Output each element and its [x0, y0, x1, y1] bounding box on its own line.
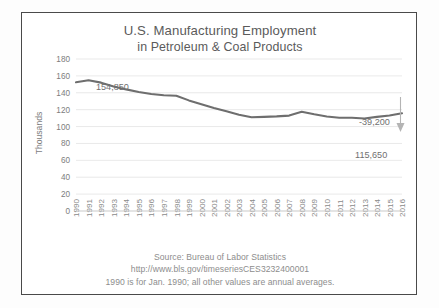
- x-tick-2002: 2002: [223, 198, 232, 217]
- x-tick-2005: 2005: [260, 198, 269, 217]
- x-tick-2011: 2011: [336, 199, 345, 217]
- x-tick-2006: 2006: [273, 198, 282, 217]
- x-tick-2013: 2013: [361, 198, 370, 217]
- x-tick-1998: 1998: [173, 198, 182, 217]
- y-tick-20: 20: [61, 190, 71, 199]
- x-tick-2001: 2001: [210, 198, 219, 217]
- x-tick-2016: 2016: [398, 198, 407, 217]
- x-tick-2004: 2004: [248, 198, 257, 217]
- x-tick-2008: 2008: [298, 198, 307, 217]
- end-value-label: 115,650: [355, 150, 387, 160]
- figure-border: U.S. Manufacturing Employment in Petrole…: [21, 12, 417, 295]
- x-tick-2009: 2009: [310, 198, 319, 217]
- x-tick-2003: 2003: [235, 198, 244, 217]
- x-tick-1995: 1995: [135, 198, 144, 217]
- footnote-block: Source: Bureau of Labor Statistics http:…: [22, 251, 418, 288]
- y-tick-40: 40: [61, 173, 71, 182]
- x-tick-1997: 1997: [160, 198, 169, 217]
- chart-figure: U.S. Manufacturing Employment in Petrole…: [0, 0, 439, 308]
- x-tick-2010: 2010: [323, 198, 332, 217]
- x-tick-1992: 1992: [97, 198, 106, 217]
- footnote-url: http://www.bls.gov/timeseriesCES32324000…: [22, 263, 418, 275]
- y-tick-160: 160: [56, 72, 70, 81]
- y-axis-tick-labels: 020406080100120140160180: [56, 55, 70, 216]
- y-tick-120: 120: [56, 106, 70, 115]
- footnote-source: Source: Bureau of Labor Statistics: [22, 251, 418, 263]
- x-tick-2007: 2007: [285, 198, 294, 217]
- footnote-note: 1990 is for Jan. 1990; all other values …: [22, 276, 418, 288]
- y-tick-140: 140: [56, 89, 70, 98]
- y-tick-0: 0: [65, 207, 70, 216]
- y-axis-title: Thousands: [34, 112, 44, 155]
- x-tick-2014: 2014: [373, 198, 382, 217]
- x-tick-2015: 2015: [386, 198, 395, 217]
- x-tick-1990: 1990: [72, 198, 81, 217]
- x-tick-1996: 1996: [147, 198, 156, 217]
- y-tick-60: 60: [61, 156, 71, 165]
- y-tick-80: 80: [61, 139, 71, 148]
- x-tick-2000: 2000: [198, 198, 207, 217]
- y-tick-180: 180: [56, 55, 70, 64]
- change-value-label: -39,200: [359, 117, 390, 127]
- peak-value-label: 154,850: [96, 82, 129, 92]
- x-tick-1994: 1994: [122, 198, 131, 217]
- x-tick-2012: 2012: [348, 198, 357, 217]
- x-tick-1999: 1999: [185, 198, 194, 217]
- y-tick-100: 100: [56, 123, 70, 132]
- x-axis-tick-labels: 1990199119921993199419951996199719981999…: [72, 198, 407, 217]
- x-tick-1993: 1993: [110, 198, 119, 217]
- x-tick-1991: 1991: [85, 198, 94, 217]
